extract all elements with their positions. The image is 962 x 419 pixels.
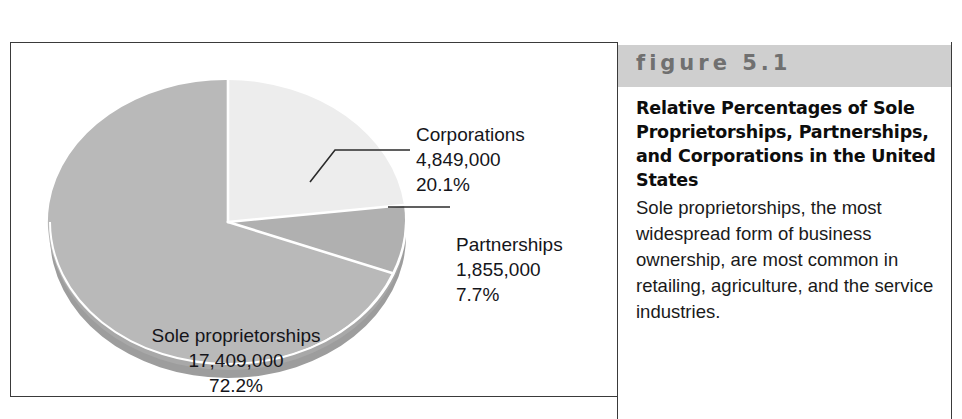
callout-sole-percent: 72.2% [86,373,386,397]
figure-number-label: figure 5.1 [636,51,791,75]
callout-sole-count: 17,409,000 [86,348,386,373]
pie-top-face [48,80,406,364]
figure-caption-text: Sole proprietorships, the most widesprea… [636,195,937,325]
figure-page: Corporations 4,849,000 20.1% Partnership… [0,0,962,419]
callout-partnerships-name: Partnerships [456,232,563,257]
callout-partnerships-count: 1,855,000 [456,257,563,282]
callout-partnerships-percent: 7.7% [456,282,563,307]
callout-corporations-count: 4,849,000 [416,147,525,172]
pie-slice-corporations [228,80,404,222]
figure-title: Relative Percentages of Sole Proprietors… [636,96,937,192]
callout-corporations-name: Corporations [416,122,525,147]
callout-corporations: Corporations 4,849,000 20.1% [416,122,525,197]
callout-sole-name: Sole proprietorships [86,323,386,348]
figure-caption-sidebar: figure 5.1 Relative Percentages of Sole … [617,42,952,419]
callout-partnerships: Partnerships 1,855,000 7.7% [456,232,563,307]
figure-caption-body: Relative Percentages of Sole Proprietors… [636,96,937,325]
callout-corporations-percent: 20.1% [416,172,525,197]
callout-sole-proprietorships: Sole proprietorships 17,409,000 72.2% [86,323,386,397]
chart-panel: Corporations 4,849,000 20.1% Partnership… [10,42,617,397]
